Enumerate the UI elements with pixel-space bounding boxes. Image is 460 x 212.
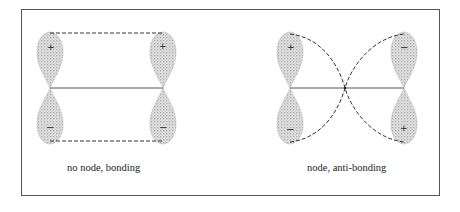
sign-plus-icon: + xyxy=(47,42,55,52)
sign-minus-icon: − xyxy=(159,122,167,133)
orbital-lobe-lower-right xyxy=(150,88,176,144)
orbital-diagram: + − + − + − − + xyxy=(0,0,460,212)
sign-plus-icon: + xyxy=(159,41,167,51)
orbital-lobe-lower-left xyxy=(37,88,63,144)
orbital-lobe-upper-left xyxy=(277,32,303,88)
orbital-lobe-upper-left xyxy=(37,32,63,88)
sign-minus-icon: − xyxy=(400,42,408,53)
node-point xyxy=(344,87,347,90)
orbital-lobe-lower-right xyxy=(391,88,417,144)
sign-minus-icon: − xyxy=(286,124,294,135)
orbital-lobe-lower-left xyxy=(277,88,303,144)
antibonding-panel: + − − + xyxy=(277,32,417,144)
sign-plus-icon: + xyxy=(287,42,295,52)
sign-minus-icon: − xyxy=(46,122,54,133)
caption-bonding: no node, bonding xyxy=(67,162,140,173)
sign-plus-icon: + xyxy=(400,123,408,133)
orbital-lobe-upper-right xyxy=(391,32,417,88)
caption-antibonding: node, anti-bonding xyxy=(307,162,386,173)
bonding-panel: + − + − xyxy=(37,32,176,144)
